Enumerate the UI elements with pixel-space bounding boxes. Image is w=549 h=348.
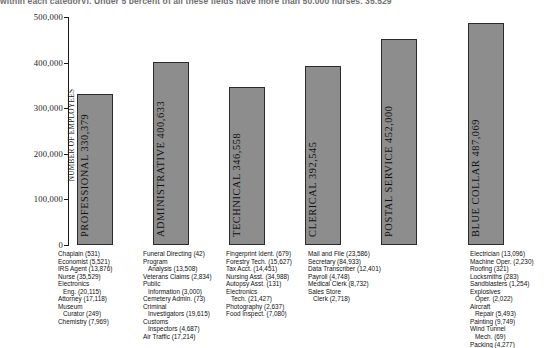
occupation-entry: Forestry Tech. (15,627)	[226, 258, 312, 266]
occupation-entry: Aircraft	[470, 303, 549, 311]
occupation-entry: Eng. (20,115)	[58, 288, 138, 296]
occupation-column-clerical: Mail and File (23,586)Secretary (84,933)…	[308, 250, 396, 303]
occupation-entry: Oper. (2,022)	[470, 295, 549, 303]
bar-label: PROFESSIONAL 330,379	[79, 114, 90, 237]
occupation-columns: Chaplain (531)Economist (5,521)IRS Agent…	[58, 250, 549, 338]
occupation-entry: Fingerprint Ident. (679)	[226, 250, 312, 258]
bar-administrative[interactable]: ADMINISTRATIVE 400,633	[153, 62, 189, 245]
occupation-entry: Museum	[58, 303, 138, 311]
occupation-entry: Chaplain (531)	[58, 250, 138, 258]
occupation-entry: Sales Store	[308, 288, 396, 296]
y-axis-tick	[64, 245, 69, 246]
bar-blue-collar[interactable]: BLUE COLLAR 487,069	[468, 23, 504, 245]
occupation-entry: Nurse (35,529)	[58, 273, 138, 281]
occupation-entry: Secretary (84,933)	[308, 258, 396, 266]
bar-professional[interactable]: PROFESSIONAL 330,379	[77, 94, 113, 245]
occupation-entry: Cemetery Admin. (73)	[143, 295, 225, 303]
occupation-entry: Autopsy Asst. (131)	[226, 280, 312, 288]
bar-label: ADMINISTRATIVE 400,633	[155, 101, 166, 237]
y-axis-tick-label: 500,000	[34, 12, 63, 22]
occupation-entry: Roofing (321)	[470, 265, 549, 273]
occupation-entry: Funeral Directing (42)	[143, 250, 225, 258]
occupation-entry: Data Transcriber (12,401)	[308, 265, 396, 273]
occupation-entry: Veterans Claims (2,834)	[143, 273, 225, 281]
occupation-entry: Mail and File (23,586)	[308, 250, 396, 258]
bar-technical[interactable]: TECHNICAL 346,558	[229, 87, 265, 245]
occupation-entry: Sandblasters (1,254)	[470, 280, 549, 288]
occupation-entry: Packing (4,277)	[470, 341, 549, 348]
y-axis-title: NUMBER OF EMPLOYEES	[68, 89, 76, 182]
occupation-column-professional: Chaplain (531)Economist (5,521)IRS Agent…	[58, 250, 138, 325]
occupation-entry: Chemistry (7,969)	[58, 318, 138, 326]
occupation-entry: Investigators (19,615)	[143, 310, 225, 318]
y-axis-tick-label: 400,000	[34, 58, 63, 68]
occupation-entry: Tax Acct. (14,451)	[226, 265, 312, 273]
y-axis-tick-label: 300,000	[34, 103, 63, 113]
occupation-entry: Clerk (2,718)	[308, 295, 396, 303]
occupation-entry: Analysis (13,508)	[143, 265, 225, 273]
occupation-entry: Electronics	[226, 288, 312, 296]
y-axis-tick-label: 200,000	[34, 149, 63, 159]
bar-label: POSTAL SERVICE 452,000	[383, 105, 394, 237]
occupation-entry: Photography (2,637)	[226, 303, 312, 311]
occupation-entry: Inspectors (4,687)	[143, 325, 225, 333]
y-axis-tick	[64, 199, 69, 200]
bar-label: TECHNICAL 346,558	[231, 133, 242, 237]
occupation-entry: Customs	[143, 318, 225, 326]
y-axis-tick	[64, 63, 69, 64]
occupation-entry: Air Traffic (17,214)	[143, 333, 225, 341]
occupation-entry: Electrician (13,096)	[470, 250, 549, 258]
occupation-entry: Electronics	[58, 280, 138, 288]
occupation-column-technical: Fingerprint Ident. (679)Forestry Tech. (…	[226, 250, 312, 318]
y-axis-tick	[64, 17, 69, 18]
occupation-entry: Medical Clerk (8,732)	[308, 280, 396, 288]
bar-label: BLUE COLLAR 487,069	[470, 119, 481, 237]
occupation-entry: Information (3,000)	[143, 288, 225, 296]
occupation-entry: Program	[143, 258, 225, 266]
occupation-entry: Mech. (69)	[470, 333, 549, 341]
bar-clerical[interactable]: CLERICAL 392,545	[305, 66, 341, 245]
occupation-column-blue-collar: Electrician (13,096)Machine Oper. (2,230…	[470, 250, 549, 348]
occupation-entry: IRS Agent (13,876)	[58, 265, 138, 273]
occupation-entry: Nursing Asst. (34,988)	[226, 273, 312, 281]
occupation-entry: Wind Tunnel	[470, 325, 549, 333]
occupation-entry: Tech. (21,427)	[226, 295, 312, 303]
y-axis-tick-label: 100,000	[34, 194, 63, 204]
bar-label: CLERICAL 392,545	[307, 141, 318, 237]
bar-postal-service[interactable]: POSTAL SERVICE 452,000	[381, 39, 417, 245]
plot-area: 500,000400,000300,000200,000100,0000 NUM…	[68, 17, 540, 245]
occupation-entry: Locksmiths (283)	[470, 273, 549, 281]
occupation-entry: Economist (5,521)	[58, 258, 138, 266]
occupation-entry: Food Inspect. (7,080)	[226, 310, 312, 318]
clipped-page-text: within each category). Under 5 percent o…	[0, 0, 549, 4]
occupation-entry: Explosives	[470, 288, 549, 296]
y-axis-tick-label: 0	[59, 240, 64, 250]
occupation-entry: Machine Oper. (2,230)	[470, 258, 549, 266]
occupation-entry: Curator (249)	[58, 310, 138, 318]
occupation-entry: Repair (5,493)	[470, 310, 549, 318]
occupation-entry: Painting (9,749)	[470, 318, 549, 326]
occupation-entry: Payroll (4,748)	[308, 273, 396, 281]
occupation-entry: Public	[143, 280, 225, 288]
occupation-entry: Attorney (17,118)	[58, 295, 138, 303]
occupation-entry: Criminal	[143, 303, 225, 311]
occupation-column-administrative: Funeral Directing (42)ProgramAnalysis (1…	[143, 250, 225, 341]
